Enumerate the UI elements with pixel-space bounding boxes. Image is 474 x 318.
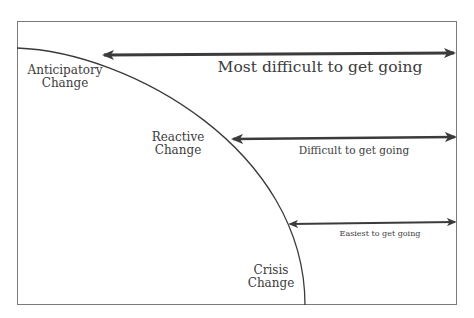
- label-reactive-line2: Change: [146, 144, 210, 157]
- label-crisis-line2: Change: [246, 277, 296, 290]
- label-difficult: Difficult to get going: [284, 145, 424, 157]
- arrow-easiest: [290, 222, 455, 224]
- change-curve-diagram: [0, 0, 474, 318]
- arrow-difficult: [233, 137, 455, 139]
- arrow-most-difficult: [104, 53, 454, 55]
- label-reactive-change: Reactive Change: [146, 131, 210, 158]
- label-reactive-line1: Reactive: [146, 131, 210, 144]
- label-crisis-change: Crisis Change: [246, 264, 296, 291]
- label-crisis-line1: Crisis: [246, 264, 296, 277]
- label-anticipatory-change: Anticipatory Change: [24, 64, 106, 91]
- label-anticipatory-line2: Change: [24, 77, 106, 90]
- label-most-difficult: Most difficult to get going: [200, 59, 440, 76]
- label-easiest: Easiest to get going: [330, 230, 430, 239]
- label-anticipatory-line1: Anticipatory: [24, 64, 106, 77]
